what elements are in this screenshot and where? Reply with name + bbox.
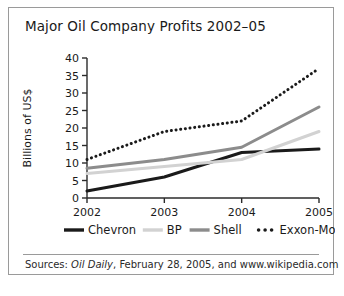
x-tick-label: 2005 (305, 206, 333, 219)
series-line-shell (87, 107, 319, 168)
legend-label-shell: Shell (214, 223, 242, 237)
y-tick-label: 0 (72, 192, 79, 205)
x-tick-label: 2003 (150, 206, 178, 219)
x-tick-label: 2002 (73, 206, 101, 219)
chart-figure: Major Oil Company Profits 2002–05 051015… (8, 7, 334, 275)
source-divider (23, 254, 319, 255)
legend-label-exxon-mobil: Exxon-Mobil (280, 223, 335, 237)
y-tick-label: 40 (65, 52, 79, 65)
legend-swatch-exxon-mobil (257, 228, 261, 232)
legend-label-chevron: Chevron (88, 223, 136, 237)
legend-label-bp: BP (167, 223, 182, 237)
y-axis-label: Billions of US$ (21, 89, 34, 168)
source-publication: Oil Daily (71, 259, 113, 270)
line-chart-plot: 0510152025303540Billions of US$200220032… (9, 30, 335, 254)
y-tick-label: 25 (65, 105, 79, 118)
legend-swatch-exxon-mobil (263, 228, 267, 232)
x-tick-label: 2004 (228, 206, 256, 219)
y-tick-label: 15 (65, 140, 79, 153)
y-tick-label: 20 (65, 122, 79, 135)
source-rest: , February 28, 2005, and www.wikipedia.c… (113, 259, 338, 270)
source-prefix: Sources: (25, 259, 71, 270)
series-line-exxon-mobil (87, 69, 319, 160)
legend-swatch-exxon-mobil (270, 228, 274, 232)
y-tick-label: 30 (65, 87, 79, 100)
source-note: Sources: Oil Daily, February 28, 2005, a… (25, 259, 338, 270)
y-tick-label: 10 (65, 157, 79, 170)
y-tick-label: 35 (65, 70, 79, 83)
y-tick-label: 5 (72, 175, 79, 188)
